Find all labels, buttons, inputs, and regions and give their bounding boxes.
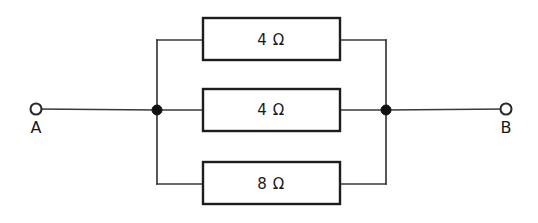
resistor-label-top: 4 Ω <box>257 31 284 49</box>
terminal-b-label: B <box>501 118 512 137</box>
circuit-canvas: 4 Ω 4 Ω 8 Ω A B <box>0 0 538 223</box>
lead-wire-right <box>386 109 506 110</box>
terminal-b-circle <box>501 104 512 115</box>
junction-node-right <box>381 105 391 115</box>
resistor-label-middle: 4 Ω <box>257 101 284 119</box>
resistor-label-bottom: 8 Ω <box>257 175 284 193</box>
circuit-diagram: 4 Ω 4 Ω 8 Ω A B <box>0 0 538 223</box>
terminal-a-label: A <box>31 118 42 137</box>
junction-node-left <box>152 105 162 115</box>
lead-wire-left <box>36 109 157 110</box>
terminal-a-circle <box>31 104 42 115</box>
